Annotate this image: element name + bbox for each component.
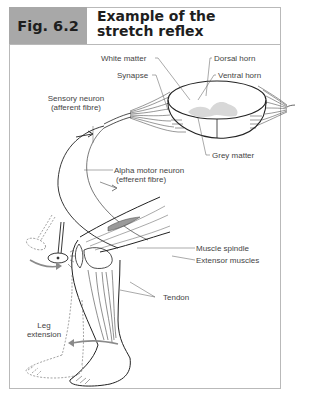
patella — [75, 244, 83, 268]
label-alpha-motor-neuron: Alpha motor neuron (efferent fibre) — [114, 166, 184, 184]
label-leg-extension: Leg extension — [20, 321, 68, 339]
label-tendon: Tendon — [163, 293, 189, 302]
femur-end — [84, 248, 112, 269]
label-dorsal-horn: Dorsal horn — [214, 54, 255, 63]
efferent-arrow-icon — [112, 185, 117, 191]
shin-back — [118, 260, 130, 358]
label-synapse: Synapse — [117, 71, 148, 80]
label-sensory-neuron: Sensory neuron (afferent fibre) — [36, 94, 116, 112]
leg — [70, 197, 170, 386]
label-sensory-neuron-line-2: (afferent fibre) — [36, 103, 116, 112]
label-sensory-neuron-line-1: Sensory neuron — [36, 94, 116, 103]
label-extensor-muscles: Extensor muscles — [196, 256, 259, 265]
hammer-handle — [58, 222, 64, 254]
label-white-matter: White matter — [101, 54, 146, 63]
label-alpha-motor-line-1: Alpha motor neuron — [114, 166, 184, 175]
label-ventral-horn: Ventral horn — [218, 71, 261, 80]
label-leg-extension-line-1: Leg — [20, 321, 68, 330]
spinal-nerve-right — [287, 104, 295, 107]
spinal-cord-diagram — [104, 81, 295, 138]
reflex-hammer — [48, 222, 75, 268]
thigh-bottom — [100, 232, 170, 252]
label-leg-extension-line-2: extension — [20, 330, 68, 339]
spinal-nerve-left — [104, 113, 131, 128]
label-alpha-motor-line-2: (efferent fibre) — [114, 175, 184, 184]
leg-extension-arrow-icon — [72, 341, 118, 344]
thigh-top — [80, 197, 160, 237]
label-grey-matter: Grey matter — [212, 151, 254, 160]
reflex-hammer-previous — [25, 215, 55, 252]
label-muscle-spindle: Muscle spindle — [196, 244, 249, 253]
foot — [70, 345, 130, 386]
